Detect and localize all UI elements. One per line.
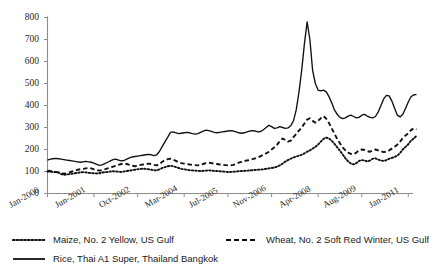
chart-legend: Maize, No. 2 Yellow, US GulfWheat, No. 2… — [0, 232, 426, 278]
y-tick-label: 300 — [5, 122, 39, 132]
y-tick-label: 500 — [5, 78, 39, 88]
series-line-dotted — [48, 136, 417, 175]
legend-item: Rice, Thai A1 Super, Thailand Bangkok — [12, 253, 218, 264]
y-tick-label: 700 — [5, 34, 39, 44]
y-tick-label: 400 — [5, 100, 39, 110]
chart-axes — [48, 17, 414, 194]
y-tick-label: 800 — [5, 12, 39, 22]
legend-swatch-dotted — [12, 235, 46, 245]
legend-label: Wheat, No. 2 Soft Red Winter, US Gulf — [266, 234, 429, 245]
legend-item: Wheat, No. 2 Soft Red Winter, US Gulf — [225, 234, 429, 245]
y-tick-label: 100 — [5, 166, 39, 176]
legend-item: Maize, No. 2 Yellow, US Gulf — [12, 234, 174, 245]
legend-label: Maize, No. 2 Yellow, US Gulf — [53, 234, 174, 245]
legend-swatch-dashed — [225, 235, 259, 245]
y-tick-label: 600 — [5, 56, 39, 66]
legend-swatch-solid — [12, 254, 46, 264]
series-line-solid — [48, 22, 417, 165]
y-tick-label: 200 — [5, 144, 39, 154]
legend-label: Rice, Thai A1 Super, Thailand Bangkok — [53, 253, 218, 264]
